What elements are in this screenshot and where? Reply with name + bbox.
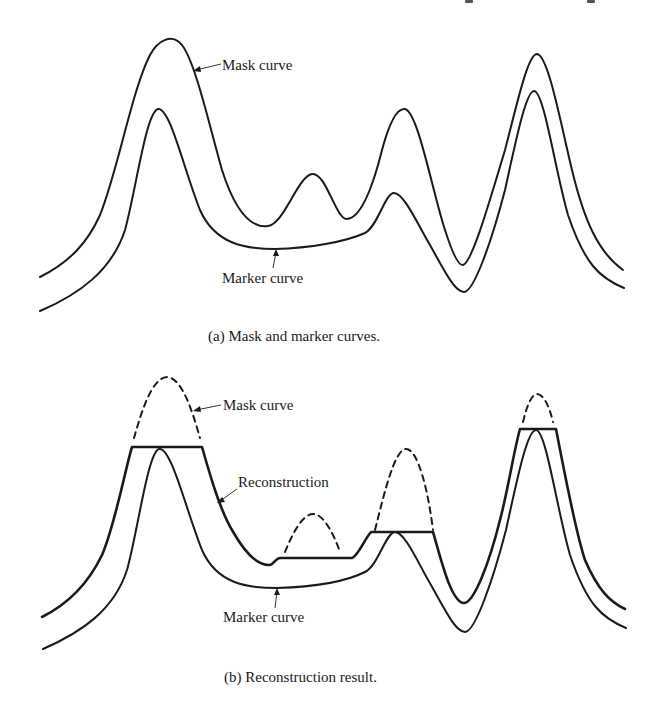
- panel-b: Mask curve Reconstruction Marker curve (…: [42, 377, 626, 686]
- panel-a-caption: (a) Mask and marker curves.: [208, 328, 380, 345]
- panel-b-mask-curve-peak-1: [134, 377, 200, 438]
- panel-a-marker-label: Marker curve: [222, 270, 304, 286]
- panel-a-marker-annotation: Marker curve: [222, 249, 304, 286]
- panel-b-marker-annotation: Marker curve: [223, 588, 305, 625]
- panel-a-mask-curve: [40, 39, 623, 277]
- panel-b-mask-label: Mask curve: [223, 397, 294, 413]
- panel-a: Mask curve Marker curve (a) Mask and mar…: [40, 39, 624, 345]
- morphological-reconstruction-figure: Mask curve Marker curve (a) Mask and mar…: [0, 0, 671, 706]
- panel-b-reconstruction-curve: [42, 429, 625, 617]
- panel-b-caption: (b) Reconstruction result.: [224, 669, 377, 686]
- top-clipped-text-remnants: [465, 0, 595, 3]
- panel-b-mask-curve-peak-4: [523, 394, 553, 422]
- panel-a-mask-annotation: Mask curve: [193, 57, 293, 73]
- panel-b-reconstruction-annotation: Reconstruction: [217, 474, 329, 503]
- panel-b-marker-label: Marker curve: [223, 609, 305, 625]
- panel-b-mask-curve-peak-2: [285, 514, 340, 552]
- panel-b-reconstruction-label: Reconstruction: [238, 474, 329, 490]
- panel-b-marker-curve: [43, 430, 626, 649]
- panel-a-mask-label: Mask curve: [222, 57, 293, 73]
- panel-b-mask-annotation: Mask curve: [193, 397, 294, 413]
- panel-b-mask-curve-peak-3: [375, 449, 433, 530]
